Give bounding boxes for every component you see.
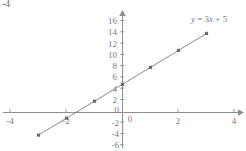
y-tick-label-minus4: -4 [112, 129, 120, 139]
y-tick-label-14: 14 [108, 27, 118, 37]
equation-plus: + 5 [213, 14, 228, 24]
x-tick-label-2: 2 [176, 116, 181, 126]
data-point [149, 66, 152, 69]
data-point [93, 100, 96, 103]
data-point [205, 32, 208, 35]
x-axis-group [3, 109, 244, 116]
x-tick-label-4: 4 [232, 116, 237, 126]
y-tick-label-8: 8 [113, 61, 118, 71]
y-tick-labels: 16 14 12 10 8 6 4 2 0 -2 -4 -6 [108, 16, 120, 150]
equation-label: y = 3x + 5 [190, 14, 228, 24]
y-tick-label-minus6: -6 [112, 140, 120, 150]
y-tick-label-16: 16 [108, 16, 118, 26]
y-tick-label-6: 6 [113, 72, 118, 82]
y-tick-label-0: 0 [115, 105, 120, 115]
coordinate-plane: -4 -2 0 2 4 16 14 12 10 8 6 4 2 0 -2 -4 … [0, 0, 246, 151]
x-tick-label-minus4: -4 [6, 116, 14, 126]
x-tick-label-0: 0 [128, 114, 133, 124]
y-axis-arrow-icon [119, 10, 126, 16]
y-axis-group [119, 10, 126, 148]
data-point [65, 117, 68, 120]
y-tick-label-10: 10 [108, 50, 118, 60]
equation-equals: = 3 [195, 14, 210, 24]
data-point [37, 133, 40, 136]
x-axis-arrow-icon [238, 109, 244, 116]
y-tick-label-minus2: -2 [112, 118, 120, 128]
x-tick-labels: -4 -2 0 2 4 [6, 114, 237, 126]
y-tick-label-2: 2 [113, 95, 118, 105]
data-point [121, 83, 124, 86]
graph-screenshot: -4| -4 [0, 0, 246, 151]
data-point [177, 49, 180, 52]
y-tick-label-12: 12 [108, 39, 117, 49]
